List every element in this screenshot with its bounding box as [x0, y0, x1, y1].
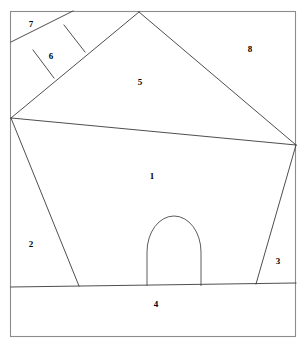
wall-left-edge	[11, 118, 79, 286]
region-label-8: 8	[248, 44, 253, 54]
region-label-2: 2	[29, 239, 34, 249]
ground-line	[11, 283, 296, 287]
roof-right-edge	[139, 12, 296, 145]
square-divider-right	[64, 25, 85, 52]
line-drawing-canvas: 1 2 3 4 5 6 7 8	[0, 0, 305, 355]
region-label-7: 7	[29, 19, 34, 29]
arched-door-outline	[147, 216, 201, 286]
region-label-3: 3	[276, 256, 281, 266]
figure-container: 1 2 3 4 5 6 7 8	[0, 0, 305, 355]
roof-band-outer-edge	[11, 11, 73, 42]
region-label-4: 4	[154, 299, 159, 309]
eave-line	[11, 118, 296, 145]
region-label-5: 5	[138, 77, 143, 87]
region-label-1: 1	[150, 171, 155, 181]
region-label-6: 6	[49, 51, 54, 61]
